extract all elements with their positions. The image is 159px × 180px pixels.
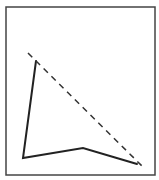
dashed-line xyxy=(28,53,143,167)
solid-polyline xyxy=(23,61,137,164)
diagram-frame xyxy=(6,7,155,175)
line-diagram xyxy=(0,0,159,180)
diagram-canvas xyxy=(0,0,159,180)
